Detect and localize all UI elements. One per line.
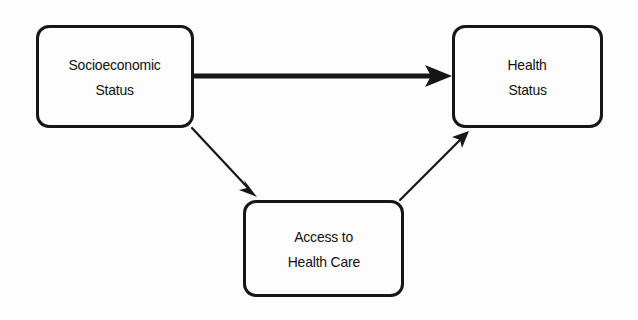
node-health-status[interactable]: Health Status (452, 25, 603, 128)
edge-ses-to-access-line (192, 128, 249, 189)
node-access-to-health-care-line-2: Health Care (287, 249, 359, 274)
node-socioeconomic-status-line-1: Socioeconomic (69, 52, 161, 77)
node-access-to-health-care-line-1: Access to (294, 224, 353, 249)
path-diagram: Socioeconomic Status Access to Health Ca… (0, 0, 638, 320)
node-socioeconomic-status-line-2: Status (96, 77, 134, 102)
node-health-status-line-2: Status (508, 77, 546, 102)
node-socioeconomic-status[interactable]: Socioeconomic Status (36, 25, 194, 128)
edge-ses-to-access (192, 128, 257, 197)
edge-access-to-health-status-line (400, 139, 461, 200)
edge-ses-to-health-status (193, 65, 452, 87)
edge-access-to-health-status (400, 131, 469, 200)
node-health-status-line-1: Health (508, 52, 547, 77)
node-access-to-health-care[interactable]: Access to Health Care (243, 200, 404, 297)
